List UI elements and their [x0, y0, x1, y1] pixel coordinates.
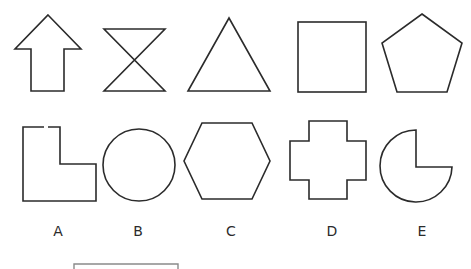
triangle-shape	[188, 18, 270, 91]
option-e-three-quarter-circle	[380, 130, 452, 202]
shape-puzzle-figure: A B C D E	[0, 0, 471, 269]
option-b-circle	[103, 129, 175, 201]
option-label-c: C	[216, 222, 246, 240]
hourglass-shape	[104, 29, 165, 91]
option-label-b: B	[123, 222, 153, 240]
option-c-hexagon	[184, 123, 270, 199]
pentagon-shape	[382, 14, 462, 92]
option-label-e: E	[407, 222, 437, 240]
up-arrow-shape	[15, 15, 81, 91]
option-label-a: A	[43, 222, 73, 240]
bottom-bracket-line	[74, 264, 178, 269]
option-d-cross	[290, 121, 366, 199]
option-label-d: D	[317, 222, 347, 240]
option-a-l-shape	[23, 127, 96, 201]
square-shape	[298, 22, 366, 92]
